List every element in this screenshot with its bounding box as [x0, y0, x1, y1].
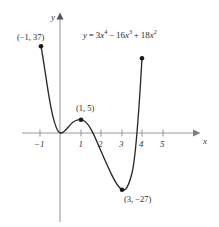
x-tick-label-3: 3	[119, 140, 124, 149]
x-axis-arrow	[193, 129, 201, 136]
y-axis	[57, 13, 64, 223]
equation-term3-exponent: 2	[154, 28, 157, 35]
equation-equals: =	[87, 30, 96, 40]
point-local-min	[120, 188, 125, 193]
label-left-endpoint: (−1, 37)	[17, 33, 44, 42]
polynomial-curve	[41, 46, 142, 190]
point-local-max	[79, 117, 84, 122]
point-left-endpoint	[39, 44, 44, 49]
marked-points	[39, 44, 145, 192]
x-tick-label-2: 2	[98, 140, 103, 149]
equation-operator2: +	[132, 30, 141, 40]
y-axis-label: y	[51, 13, 55, 22]
point-right-endpoint	[140, 56, 145, 61]
graph-figure: −1 1 2 3 4 5 x y (−1, 37) (1, 5) (3, −27…	[0, 0, 219, 227]
x-tick-label-1: 1	[79, 140, 84, 149]
x-axis-label: x	[203, 137, 207, 146]
equation-term2-coef: 16	[116, 30, 125, 40]
y-axis-arrow	[57, 13, 64, 20]
x-tick-label-5: 5	[160, 140, 165, 149]
equation-term3-coef: 18	[141, 30, 150, 40]
x-axis	[22, 129, 201, 136]
equation-label: y = 3x4 − 16x3 + 18x2	[83, 31, 157, 40]
x-tick-label-4: 4	[139, 140, 144, 149]
x-tick-label-neg1: −1	[34, 140, 45, 149]
label-local-min: (3, −27)	[124, 195, 151, 204]
equation-operator1: −	[107, 30, 116, 40]
label-local-max: (1, 5)	[76, 104, 94, 113]
